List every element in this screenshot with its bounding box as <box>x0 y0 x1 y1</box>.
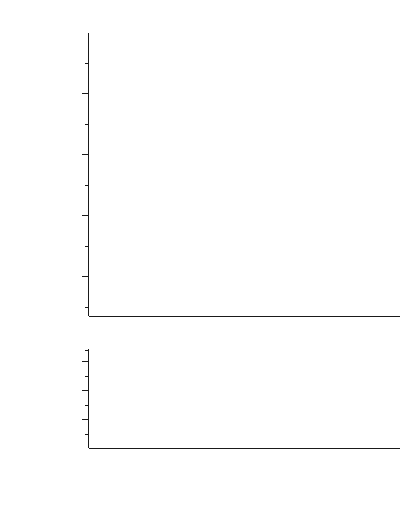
bottom-y-ticks <box>82 350 89 434</box>
chart-svg <box>0 0 417 521</box>
top-panel <box>82 33 400 317</box>
figure-container <box>0 0 417 521</box>
top-y-ticks <box>82 63 89 307</box>
bottom-panel <box>82 349 400 449</box>
